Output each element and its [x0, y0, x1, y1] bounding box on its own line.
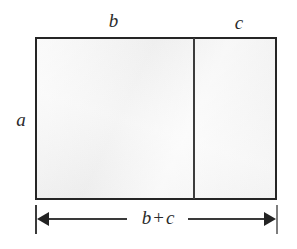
dimension-extension-tick-right	[276, 205, 278, 234]
dimension-term-c: c	[166, 207, 174, 228]
dimension-line-right-segment	[188, 218, 266, 220]
side-label-a: a	[10, 110, 32, 129]
dimension-arrowhead-right-icon	[264, 212, 276, 226]
interior-divider-line	[193, 38, 195, 199]
dimension-line-left-segment	[47, 218, 127, 220]
dimension-operator: +	[151, 207, 166, 228]
rectangle-outline	[35, 37, 277, 200]
dimension-label-b-plus-c: b+c	[127, 208, 189, 227]
dimension-arrowhead-left-icon	[37, 212, 49, 226]
segment-label-c-top: c	[193, 13, 285, 32]
dimension-term-b: b	[142, 207, 152, 228]
geometry-figure: b c a b+c	[0, 0, 297, 249]
